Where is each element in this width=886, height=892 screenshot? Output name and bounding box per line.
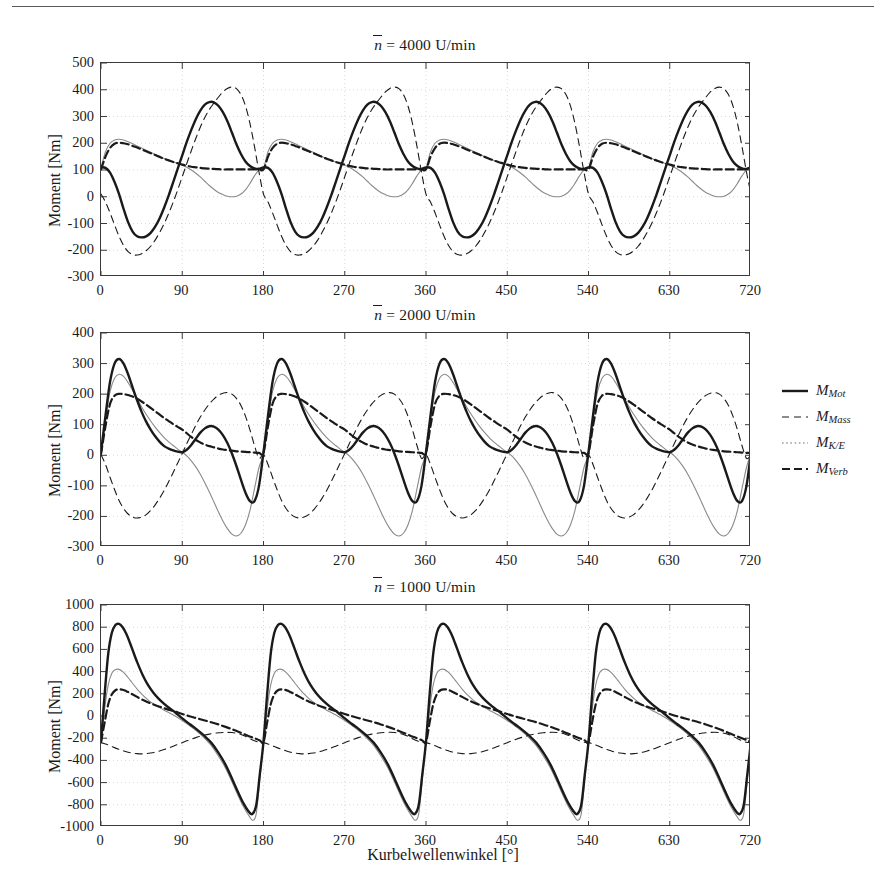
x-tick-label: 450	[495, 282, 517, 299]
y-tick-label: -300	[42, 268, 94, 285]
x-tick-label: 180	[252, 552, 274, 569]
tick-marks	[101, 605, 750, 826]
plot-area-1000	[100, 604, 750, 826]
figure-page: n = 4000 U/minMoment [Nm]-300-200-100010…	[0, 0, 886, 892]
y-tick-label: 500	[42, 54, 94, 71]
y-tick-label: -200	[42, 241, 94, 258]
y-tick-label: 300	[42, 354, 94, 371]
x-tick-label: 90	[174, 552, 189, 569]
y-tick-label: -200	[42, 507, 94, 524]
x-tick-label: 450	[495, 552, 517, 569]
y-tick-label: -800	[42, 795, 94, 812]
y-tick-label: -100	[42, 476, 94, 493]
x-tick-label: 0	[96, 552, 103, 569]
y-tick-label: 200	[42, 684, 94, 701]
x-tick-label: 270	[333, 552, 355, 569]
x-axis-label: Kurbelwellenwinkel [°]	[0, 846, 886, 864]
plot-canvas	[101, 63, 750, 276]
torque-figure: n = 4000 U/minMoment [Nm]-300-200-100010…	[0, 0, 886, 892]
legend-line-swatch	[782, 462, 808, 476]
y-tick-label: 200	[42, 385, 94, 402]
y-tick-label: 400	[42, 80, 94, 97]
y-tick-label: 100	[42, 161, 94, 178]
legend-label: MVerb	[816, 460, 848, 477]
x-tick-label: 270	[333, 282, 355, 299]
legend-label: MK/E	[816, 434, 845, 451]
y-tick-label: -100	[42, 214, 94, 231]
x-tick-label: 360	[414, 282, 436, 299]
y-tick-label: 0	[42, 187, 94, 204]
x-tick-label: 720	[739, 552, 761, 569]
y-tick-label: 600	[42, 640, 94, 657]
legend-item-MMass: MMass	[782, 404, 851, 430]
x-tick-label: 180	[252, 282, 274, 299]
y-tick-label: 200	[42, 134, 94, 151]
y-tick-label: -1000	[42, 818, 94, 835]
plot-canvas	[101, 333, 750, 546]
x-tick-label: 90	[174, 282, 189, 299]
legend-item-MVerb: MVerb	[782, 456, 851, 482]
legend-label: MMot	[816, 382, 845, 399]
panel-title-2000: n = 2000 U/min	[100, 306, 750, 324]
y-tick-label: 400	[42, 324, 94, 341]
mean-speed-symbol: n	[374, 578, 382, 596]
legend-line-swatch	[782, 436, 808, 450]
legend-label: MMass	[816, 408, 851, 425]
y-tick-label: 400	[42, 662, 94, 679]
x-tick-label: 630	[658, 282, 680, 299]
panel-title-1000: n = 1000 U/min	[100, 578, 750, 596]
grid-lines	[101, 605, 750, 826]
panel-title-4000: n = 4000 U/min	[100, 36, 750, 54]
tick-marks	[101, 333, 750, 546]
legend-line-swatch	[782, 410, 808, 424]
mean-speed-symbol: n	[374, 306, 382, 324]
x-tick-label: 360	[414, 552, 436, 569]
y-tick-label: -400	[42, 751, 94, 768]
x-tick-label: 630	[658, 552, 680, 569]
panel-title-text: = 2000 U/min	[382, 306, 476, 323]
x-tick-label: 0	[96, 282, 103, 299]
panel-title-text: = 1000 U/min	[382, 578, 476, 595]
y-tick-label: 300	[42, 107, 94, 124]
x-tick-label: 720	[739, 282, 761, 299]
plot-canvas	[101, 605, 750, 826]
y-tick-label: 0	[42, 707, 94, 724]
legend-item-MKE: MK/E	[782, 430, 851, 456]
y-tick-label: -200	[42, 729, 94, 746]
x-tick-label: 540	[577, 282, 599, 299]
y-tick-label: 1000	[42, 596, 94, 613]
legend: MMotMMassMK/EMVerb	[782, 378, 851, 482]
series-MMot	[101, 359, 750, 503]
grid-lines	[101, 333, 750, 546]
y-tick-label: -300	[42, 538, 94, 555]
mean-speed-symbol: n	[374, 36, 382, 54]
legend-item-MMot: MMot	[782, 378, 851, 404]
plot-area-2000	[100, 332, 750, 546]
x-tick-label: 540	[577, 552, 599, 569]
legend-line-swatch	[782, 384, 808, 398]
panel-title-text: = 4000 U/min	[382, 36, 476, 53]
y-tick-label: -600	[42, 773, 94, 790]
y-tick-label: 0	[42, 446, 94, 463]
y-tick-label: 100	[42, 415, 94, 432]
plot-area-4000	[100, 62, 750, 276]
y-tick-label: 800	[42, 618, 94, 635]
